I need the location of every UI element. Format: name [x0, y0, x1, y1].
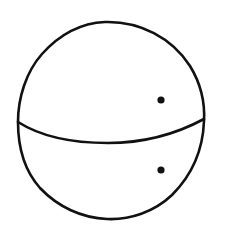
background: [0, 0, 226, 236]
upper-point: [157, 96, 164, 103]
sphere-drawing: [0, 0, 226, 236]
lower-point: [157, 166, 164, 173]
sphere-diagram: [0, 0, 226, 236]
